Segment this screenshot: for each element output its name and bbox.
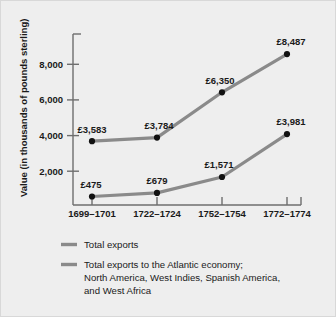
legend-label-total-exports: Total exports	[84, 239, 139, 250]
chart-figure: 8,000 6,000 4,000 2,000 Value (in thousa…	[0, 0, 336, 317]
data-label-atlantic-2: £1,571	[204, 159, 234, 170]
y-tick-label-6000: 6,000	[39, 94, 63, 105]
data-point	[89, 138, 95, 144]
x-axis-ticks	[92, 197, 287, 205]
line-chart: 8,000 6,000 4,000 2,000 Value (in thousa…	[1, 1, 336, 317]
data-label-total-exports-1: £3,784	[144, 120, 174, 131]
data-point	[89, 193, 95, 199]
x-tick-label-1: 1722–1724	[133, 208, 181, 219]
legend-label-atlantic-economy-line1: Total exports to the Atlantic economy;	[84, 259, 243, 270]
chart-legend: Total exports Total exports to the Atlan…	[61, 239, 280, 296]
legend-label-atlantic-economy-line3: and West Africa	[84, 285, 152, 296]
y-tick-label-4000: 4,000	[39, 130, 63, 141]
data-point	[219, 89, 225, 95]
series-total-exports-line	[92, 54, 287, 141]
legend-label-atlantic-economy-line2: North America, West Indies, Spanish Amer…	[84, 272, 280, 283]
series-atlantic-economy-line	[92, 134, 287, 196]
data-label-atlantic-0: £475	[80, 179, 102, 190]
data-label-atlantic-3: £3,981	[276, 116, 306, 127]
data-point	[284, 51, 290, 57]
data-point	[154, 190, 160, 196]
data-label-total-exports-0: £3,583	[77, 124, 106, 135]
x-tick-label-3: 1772–1774	[263, 208, 311, 219]
y-tick-label-2000: 2,000	[39, 166, 63, 177]
y-tick-label-8000: 8,000	[39, 59, 63, 70]
x-tick-label-0: 1699–1701	[68, 208, 116, 219]
x-tick-label-2: 1752–1754	[198, 208, 246, 219]
data-point	[154, 135, 160, 141]
data-label-total-exports-3: £8,487	[276, 36, 305, 47]
data-point	[284, 131, 290, 137]
data-label-atlantic-1: £679	[146, 175, 167, 186]
data-label-total-exports-2: £6,350	[205, 75, 234, 86]
data-point	[219, 174, 225, 180]
y-axis-title: Value (in thousands of pounds sterling)	[18, 19, 29, 197]
series-total-exports-markers	[89, 51, 290, 144]
